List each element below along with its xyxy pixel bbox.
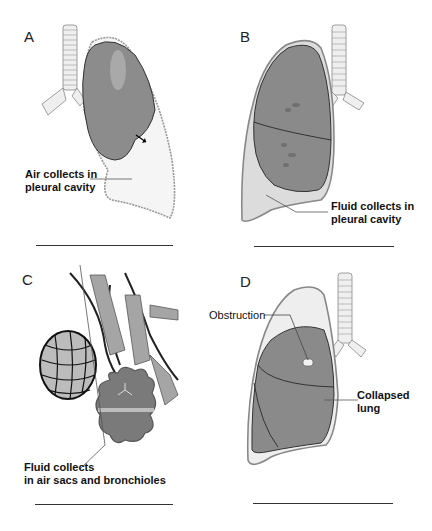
panel-c: C Fluid collects in air sacs and bronchi… bbox=[0, 265, 216, 531]
fluid-air-sacs-label: Fluid collects in air sacs and bronchiol… bbox=[24, 461, 166, 487]
pneumonia-illustration bbox=[0, 265, 216, 531]
trachea-icon bbox=[331, 273, 366, 357]
alveoli-cluster-icon bbox=[40, 331, 96, 399]
panel-letter: B bbox=[240, 28, 250, 45]
trachea-icon bbox=[42, 25, 85, 115]
answer-line[interactable] bbox=[36, 245, 173, 246]
obstruction-label: Obstruction bbox=[209, 309, 265, 321]
panel-d: D Obstruction Collapsed lung bbox=[216, 265, 432, 531]
fluid-collects-label: Fluid collects in pleural cavity bbox=[331, 200, 414, 226]
answer-line[interactable] bbox=[254, 246, 394, 247]
panel-letter: D bbox=[240, 273, 251, 290]
air-collects-label: Air collects in pleural cavity bbox=[25, 168, 97, 194]
panel-b: B Fluid collects in pleural cavity bbox=[216, 0, 432, 265]
answer-line[interactable] bbox=[35, 504, 173, 505]
panel-letter: C bbox=[22, 271, 33, 288]
fluid-filled-alveoli-icon bbox=[96, 367, 156, 442]
collapsed-lung-label: Collapsed lung bbox=[357, 389, 410, 415]
panel-a: A Air collects in pleural cavity bbox=[0, 0, 216, 265]
panel-letter: A bbox=[24, 28, 34, 45]
answer-line[interactable] bbox=[253, 503, 393, 504]
obstruction-icon bbox=[303, 359, 313, 366]
